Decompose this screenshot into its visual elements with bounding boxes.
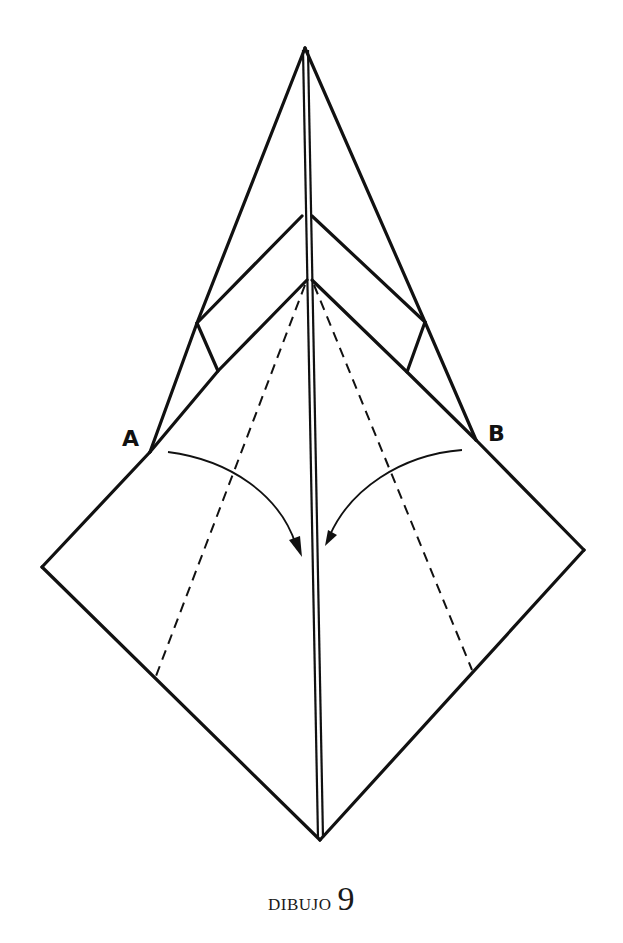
right-dashed-fold: [314, 285, 472, 670]
left-dashed-fold: [156, 285, 305, 676]
diamond-right-upper-edge: [476, 440, 584, 550]
origami-fold-diagram: A B: [0, 0, 623, 943]
label-b: B: [488, 421, 505, 446]
left-connector: [197, 323, 218, 371]
diamond-right-lower-edge: [320, 550, 584, 840]
caption-number: 9: [337, 880, 355, 917]
middle-v-left: [197, 216, 302, 323]
right-arrowhead-icon: [325, 530, 337, 546]
caption-word: DIBUJO: [268, 889, 331, 915]
right-arrow-curve: [330, 450, 462, 535]
figure-caption: DIBUJO9: [0, 880, 623, 918]
kite-left-side: [150, 48, 305, 452]
right-connector: [407, 322, 425, 372]
diamond-left-upper-edge: [42, 452, 150, 567]
flap-left-edge: [150, 280, 307, 452]
left-arrow-curve: [168, 452, 296, 545]
center-spine: [303, 50, 323, 838]
kite-right-side: [305, 48, 476, 440]
left-arrowhead-icon: [289, 536, 302, 557]
middle-v-right: [312, 216, 425, 322]
label-a: A: [122, 426, 139, 451]
flap-right-edge: [312, 280, 476, 440]
